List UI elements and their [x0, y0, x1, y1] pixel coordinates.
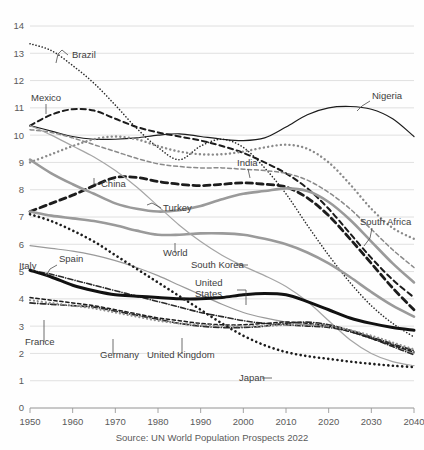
series-label-italy: Italy: [19, 260, 37, 271]
series-label-world: World: [163, 247, 188, 258]
series-label-japan: Japan: [239, 372, 265, 383]
x-tick-label: 1950: [19, 416, 40, 427]
y-tick-label: 10: [13, 130, 24, 141]
y-tick-label: 11: [14, 102, 24, 113]
series-label-germany: Germany: [100, 349, 139, 360]
x-tick-label: 1990: [190, 416, 211, 427]
x-tick-label: 2020: [318, 416, 339, 427]
series-label-united-kingdom: United Kingdom: [147, 349, 215, 360]
y-tick-label: 1: [19, 375, 24, 386]
series-label-brazil: Brazil: [72, 49, 96, 60]
x-tick-label: 1980: [147, 416, 168, 427]
x-tick-label: 2030: [361, 416, 382, 427]
series-label-south-korea: South Korea: [191, 259, 245, 270]
y-tick-label: 6: [19, 239, 24, 250]
y-tick-label: 7: [19, 211, 24, 222]
y-tick-label: 2: [19, 348, 24, 359]
series-label-south-africa: South Africa: [360, 216, 412, 227]
source-note: Source: UN World Population Prospects 20…: [116, 432, 309, 443]
series-label-united-states: UnitedStates: [195, 277, 222, 299]
x-tick-label: 1970: [105, 416, 126, 427]
series-label-nigeria: Nigeria: [372, 90, 403, 101]
x-tick-label: 2010: [275, 416, 296, 427]
series-label-india: India: [237, 157, 258, 168]
y-tick-label: 13: [13, 48, 24, 59]
series-label-spain: Spain: [59, 253, 83, 264]
y-tick-label: 9: [19, 157, 24, 168]
series-label-china: China: [101, 178, 127, 189]
y-tick-label: 12: [13, 75, 24, 86]
y-tick-label: 14: [13, 20, 24, 31]
chart-canvas: 01234567891011121314 1950196019701980199…: [0, 0, 424, 450]
y-tick-label: 4: [19, 293, 24, 304]
y-tick-label: 3: [19, 321, 24, 332]
y-tick-label: 8: [19, 184, 24, 195]
x-tick-label: 1960: [62, 416, 83, 427]
population-line-chart: 01234567891011121314 1950196019701980199…: [0, 0, 424, 450]
x-tick-label: 2000: [233, 416, 254, 427]
x-tick-label: 2040: [403, 416, 424, 427]
series-label-turkey: Turkey: [163, 202, 192, 213]
series-label-mexico: Mexico: [31, 92, 61, 103]
series-label-france: France: [25, 336, 55, 347]
y-tick-label: 0: [19, 402, 24, 413]
